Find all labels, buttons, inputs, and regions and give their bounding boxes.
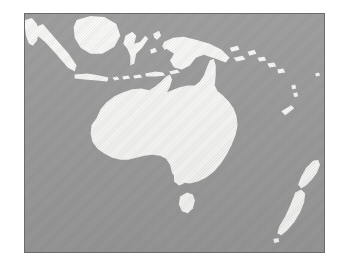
map-frame	[24, 13, 325, 253]
map-canvas	[25, 14, 324, 252]
page-root: Oceania region map	[0, 0, 343, 268]
